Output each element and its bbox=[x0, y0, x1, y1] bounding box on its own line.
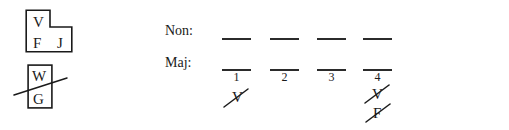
slot-number-3: 3 bbox=[317, 71, 346, 83]
puzzle-worksheet: V F J W G Non: Maj: 1 2 bbox=[0, 0, 509, 130]
l-block-letter-bottom-left: F bbox=[33, 36, 41, 51]
row-label-non: Non: bbox=[165, 24, 193, 38]
slot-number-1: 1 bbox=[222, 71, 251, 83]
non-blank-slot-4[interactable] bbox=[363, 38, 392, 40]
answer-blank-grid: Non: Maj: 1 2 3 4 V V bbox=[165, 0, 509, 130]
non-blank-slot-1[interactable] bbox=[222, 38, 251, 40]
shape-diagram-panel: V F J W G bbox=[0, 0, 150, 130]
eliminated-letter-slot1-1: V bbox=[223, 86, 253, 110]
non-blank-slot-2[interactable] bbox=[270, 38, 299, 40]
rect-block-letter-top: W bbox=[32, 69, 46, 84]
slot-number-2: 2 bbox=[270, 71, 299, 83]
non-blank-slot-3[interactable] bbox=[317, 38, 346, 40]
row-label-maj: Maj: bbox=[165, 56, 191, 70]
eliminated-letter-slot4-2: F bbox=[365, 102, 395, 126]
slot-number-4: 4 bbox=[363, 71, 392, 83]
rect-block-letter-bottom: G bbox=[33, 92, 44, 107]
l-block-letter-top-left: V bbox=[33, 15, 44, 30]
l-block-letter-bottom-right: J bbox=[57, 36, 63, 51]
